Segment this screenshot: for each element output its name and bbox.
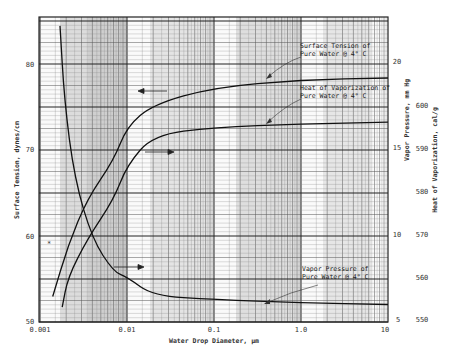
- svg-text:80: 80: [26, 61, 34, 69]
- left-axis-label: Surface Tension, dynes/cm: [13, 121, 21, 219]
- svg-text:580: 580: [416, 188, 429, 196]
- annotation-surface-tension-line2: Pure Water @ 4° C: [300, 50, 367, 58]
- heat-vaporization-axis-label: Heat of Vaporization, cal/g: [431, 107, 439, 213]
- annotation-surface-tension-line1: Surface Tension of: [300, 42, 371, 50]
- chart: Surface Tension of Pure Water @ 4° C Hea…: [0, 0, 451, 360]
- svg-text:50: 50: [26, 318, 34, 326]
- svg-text:70: 70: [26, 146, 34, 154]
- svg-text:15: 15: [393, 144, 401, 152]
- svg-text:0.001: 0.001: [29, 326, 50, 334]
- annotation-vapor-pressure-line2: Pure Water @ 4° C: [302, 273, 369, 281]
- x-axis-ticks: 0.001 0.01 0.1 1.0 10: [29, 326, 389, 334]
- svg-text:0.1: 0.1: [208, 326, 221, 334]
- svg-text:0.01: 0.01: [119, 326, 136, 334]
- svg-text:600: 600: [416, 102, 429, 110]
- svg-text:10: 10: [381, 326, 389, 334]
- svg-text:10: 10: [393, 231, 401, 239]
- svg-text:5: 5: [396, 316, 400, 324]
- annotation-heat-vaporization-line1: Heat of Vaporization of: [300, 84, 390, 92]
- svg-text:590: 590: [416, 145, 429, 153]
- svg-text:60: 60: [26, 233, 34, 241]
- svg-text:550: 550: [416, 316, 429, 324]
- svg-text:20: 20: [393, 58, 401, 66]
- annotation-vapor-pressure-line1: Vapor Pressure of: [302, 265, 369, 273]
- stray-mark: *: [47, 240, 51, 248]
- svg-text:570: 570: [416, 231, 429, 239]
- heat-vaporization-axis-ticks: 550 560 570 580 590 600: [416, 102, 429, 324]
- vapor-pressure-axis-ticks: 5 10 15 20: [393, 58, 401, 324]
- svg-text:560: 560: [416, 274, 429, 282]
- svg-text:1.0: 1.0: [295, 326, 308, 334]
- x-axis-label: Water Drop Diameter, µm: [169, 337, 259, 345]
- annotation-heat-vaporization-line2: Pure Water @ 4° C: [300, 92, 367, 100]
- vapor-pressure-axis-label: Vapor Pressure, mm Hg: [403, 79, 411, 161]
- left-axis-ticks: 50 60 70 80: [26, 61, 34, 326]
